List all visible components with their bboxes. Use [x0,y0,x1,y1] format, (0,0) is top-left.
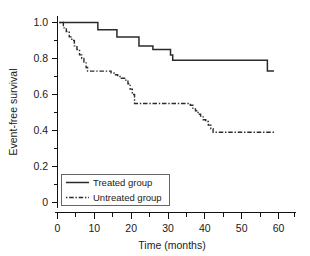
x-axis-tick-labels: 0 10 20 30 40 50 60 [55,222,285,234]
series-line-untreated [59,23,274,133]
x-tick-label-10: 10 [88,222,100,234]
y-axis-title: Event-free survival [7,69,19,156]
x-tick-label-0: 0 [55,222,61,234]
legend-label-untreated: Untreated group [93,192,162,203]
x-tick-label-50: 50 [236,222,248,234]
y-axis-ticks [52,23,58,203]
y-axis-tick-labels: 1.0 0.8 0.6 0.4 0.2 0 [33,16,48,208]
kaplan-meier-plot: 1.0 0.8 0.6 0.4 0.2 0 0 10 [0,0,310,256]
x-tick-label-60: 60 [273,222,285,234]
y-tick-label-0: 0 [42,196,48,208]
x-axis-title: Time (months) [138,239,205,251]
chart-figure: 1.0 0.8 0.6 0.4 0.2 0 0 10 [0,0,310,256]
x-tick-label-30: 30 [162,222,174,234]
x-tick-label-20: 20 [125,222,137,234]
series-line-treated [59,23,274,72]
y-tick-label-0.2: 0.2 [33,160,48,172]
y-tick-label-0.8: 0.8 [33,52,48,64]
y-tick-label-0.6: 0.6 [33,88,48,100]
x-axis-ticks [58,213,295,220]
legend-label-treated: Treated group [93,177,152,188]
x-tick-label-40: 40 [199,222,211,234]
chart-legend: Treated group Untreated group [62,175,170,206]
y-tick-label-1.0: 1.0 [33,16,48,28]
y-tick-label-0.4: 0.4 [33,124,48,136]
